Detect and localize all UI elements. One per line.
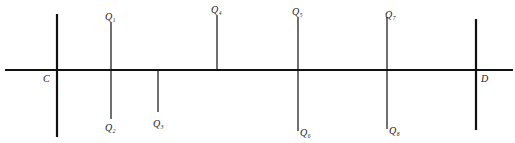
line-diagram: CDQ1Q2Q3Q4Q5Q6Q7Q8 — [0, 0, 515, 143]
point-q4-label: Q4 — [211, 4, 222, 16]
point-q6-label: Q6 — [300, 127, 311, 139]
endpoint-c-label: C — [43, 73, 50, 84]
point-q8-label: Q8 — [389, 125, 400, 137]
diagram-canvas: CDQ1Q2Q3Q4Q5Q6Q7Q8 — [0, 0, 515, 143]
point-q5-label: Q5 — [292, 6, 303, 18]
point-q7-label: Q7 — [385, 9, 396, 21]
endpoint-d-label: D — [480, 73, 489, 84]
point-q3-label: Q3 — [153, 118, 164, 130]
point-q2-label: Q2 — [105, 122, 116, 134]
point-q1-label: Q1 — [105, 11, 116, 23]
